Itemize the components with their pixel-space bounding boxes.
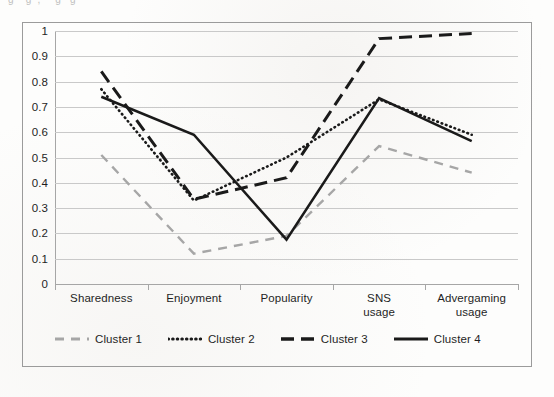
y-axis-tick-label: 0.8: [32, 76, 48, 88]
legend-item-cluster-4[interactable]: Cluster 4: [394, 333, 481, 345]
y-axis-tick-label: 1: [42, 25, 49, 37]
x-axis-tick: [333, 284, 334, 290]
legend-item-cluster-3[interactable]: Cluster 3: [281, 333, 368, 345]
x-axis-tick: [425, 284, 426, 290]
legend-line-swatch-icon: [394, 334, 428, 344]
x-axis-tick-label-line: Enjoyment: [146, 291, 242, 305]
legend-line-swatch-icon: [168, 334, 202, 344]
x-axis-tick-label-line: Sharedness: [53, 291, 149, 305]
series-lines-group: [55, 31, 518, 284]
x-axis-tick: [518, 284, 519, 290]
y-axis-tick-label: 0.1: [32, 253, 48, 265]
legend-item-cluster-1[interactable]: Cluster 1: [55, 333, 142, 345]
legend-line-swatch-icon: [55, 334, 89, 344]
x-axis-tick-label-line: Advergaming: [424, 291, 520, 305]
y-axis-tick-label: 0.4: [32, 177, 48, 189]
x-axis-tick-label: Advergamingusage: [424, 291, 520, 319]
y-axis-tick-label: 0.7: [32, 101, 48, 113]
x-axis-tick: [55, 284, 56, 290]
series-line-cluster-4: [101, 97, 471, 240]
x-axis-tick-label-line: SNS: [331, 291, 427, 305]
y-axis-tick-label: 0.5: [32, 152, 48, 164]
x-axis-tick-label-line: Popularity: [239, 291, 335, 305]
x-axis-tick-label-line: usage: [424, 305, 520, 319]
y-axis-tick-label: 0.6: [32, 126, 48, 138]
series-line-cluster-2: [101, 89, 471, 200]
x-axis-tick-label: SNSusage: [331, 291, 427, 319]
x-axis-tick-label: Enjoyment: [146, 291, 242, 305]
legend-label: Cluster 3: [321, 333, 368, 345]
y-axis-tick-label: 0.9: [32, 50, 48, 62]
x-axis-tick: [240, 284, 241, 290]
legend-label: Cluster 1: [95, 333, 142, 345]
x-axis-tick-label: Sharedness: [53, 291, 149, 305]
cropped-caption-text: g ­ ­ ­ g ­ , ­ ­ ­ ­ g ­ ­ g: [8, 0, 428, 6]
chart-legend: Cluster 1Cluster 2Cluster 3Cluster 4: [55, 333, 525, 345]
x-axis-tick-label: Popularity: [239, 291, 335, 305]
legend-label: Cluster 2: [208, 333, 255, 345]
gridline: [55, 284, 518, 285]
legend-item-cluster-2[interactable]: Cluster 2: [168, 333, 255, 345]
y-axis-tick-label: 0.2: [32, 227, 48, 239]
legend-line-swatch-icon: [281, 334, 315, 344]
y-axis-tick-label: 0.3: [32, 202, 48, 214]
y-axis-tick-label: 0: [42, 278, 49, 290]
x-axis-tick: [148, 284, 149, 290]
legend-label: Cluster 4: [434, 333, 481, 345]
x-axis-tick-label-line: usage: [331, 305, 427, 319]
chart-plot-region: 10.90.80.70.60.50.40.30.20.10 Sharedness…: [55, 31, 518, 284]
